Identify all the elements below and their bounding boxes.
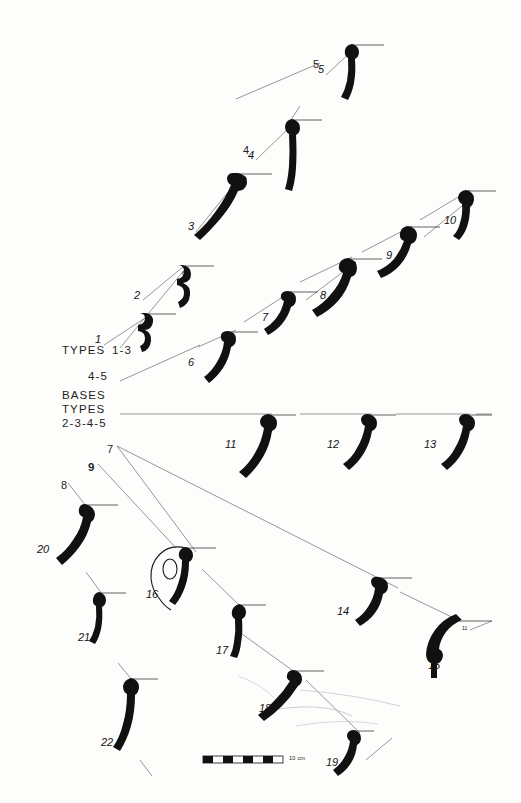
item-number-9: 9	[386, 248, 392, 262]
scale-bar-segment	[223, 756, 233, 763]
item-type-13: 6	[466, 419, 469, 426]
handle-lower-outline	[159, 598, 171, 610]
profile-7	[264, 291, 296, 335]
profile-22	[113, 678, 139, 751]
item-type-9: 6	[408, 231, 411, 238]
item-type-7: 5	[288, 296, 291, 303]
item-number-10: 10	[444, 213, 456, 227]
item-type-18: 2,5	[294, 675, 301, 682]
leader-line-5b	[236, 63, 320, 99]
sherd-outline-faint-c	[296, 721, 378, 726]
vessel-profiles-group	[56, 44, 475, 776]
item-number-4: 4	[248, 148, 254, 162]
item-type-1: 6	[146, 318, 149, 325]
item-number-8: 8	[320, 288, 326, 302]
item-type-20: 4	[85, 509, 88, 516]
item-number-12: 12	[327, 437, 339, 451]
leader-line-2	[120, 268, 186, 348]
item-type-17: 4	[239, 609, 242, 616]
sherd-outline-faint-b	[300, 690, 400, 706]
pottery-typology-plate: TYPES 1-3 4-5 BASES TYPES 2-3-4-5 45798 …	[0, 0, 521, 803]
item-number-17: 17	[216, 643, 228, 657]
item-number-19: 19	[326, 755, 338, 769]
scale-bar-segment	[203, 756, 213, 763]
item-number-16: 16	[146, 587, 158, 601]
item-number-11: 11	[225, 437, 236, 451]
scale-bar-segment	[263, 756, 273, 763]
leader-line-21	[86, 572, 102, 594]
item-type-16: 1	[186, 552, 189, 559]
item-type-21: 3	[99, 597, 102, 604]
item-number-2: 2	[134, 288, 140, 302]
item-type-2: 6	[182, 270, 185, 277]
legend-types-range-1-3: 1-3	[112, 343, 132, 358]
item-number-21: 21	[78, 630, 90, 644]
profile-16-rim	[169, 547, 193, 605]
item-number-6: 6	[188, 355, 194, 369]
item-number-22: 22	[101, 735, 113, 749]
profile-5	[341, 44, 359, 100]
scale-bar-label: 10 cm	[289, 755, 305, 762]
leader-line-20	[68, 483, 86, 506]
item-type-10: 6	[466, 195, 469, 202]
fan-line-9-to-16	[98, 464, 176, 548]
scale-bar-segment	[243, 756, 253, 763]
profile-17	[230, 604, 246, 658]
item-number-15: 15	[428, 658, 440, 672]
item-type-5: 5	[352, 49, 355, 56]
leader-line-18	[242, 634, 296, 673]
item-number-20: 20	[37, 542, 49, 556]
profile-14	[355, 577, 388, 626]
item-type-19: 2	[354, 735, 357, 742]
item-type-22: 2	[131, 683, 134, 690]
leader-line-15b	[470, 621, 492, 630]
item-type-3: 6	[238, 178, 241, 185]
legend-bases-label: BASES	[62, 388, 106, 403]
leader-8-item20: 8	[61, 478, 67, 492]
sherd-outline-faint-d	[238, 676, 276, 700]
item-number-1: 1	[95, 332, 101, 346]
item-number-14: 14	[337, 604, 349, 618]
item-type-6: 6	[228, 336, 231, 343]
profile-20	[56, 504, 95, 565]
item-number-5: 5	[318, 62, 324, 76]
profile-11	[239, 414, 277, 478]
item-type-4: 7	[292, 124, 295, 131]
item-type-8: 6	[348, 263, 351, 270]
item-type-12: 6	[368, 419, 371, 426]
leader-line-17	[202, 569, 241, 607]
item-type-15: 11	[462, 625, 467, 632]
legend-types-range-4-5: 4-5	[88, 369, 108, 384]
leader-line-19	[306, 680, 360, 733]
handle-inner-hole	[163, 559, 177, 579]
item-number-18: 18	[259, 701, 271, 715]
leader-7-fan: 7	[107, 442, 113, 456]
profile-21	[89, 592, 106, 644]
legend-bases-types-range: 2-3-4-5	[62, 416, 107, 431]
legend-bases-types-label: TYPES	[62, 402, 105, 417]
leader-line-22b	[140, 760, 152, 776]
item-number-7: 7	[262, 310, 268, 324]
fan-line-7-to-14	[117, 446, 398, 588]
leader-9-fan: 9	[88, 460, 94, 475]
fan-line-7-to-16	[117, 446, 196, 552]
scale-bar	[203, 756, 283, 763]
profile-12	[343, 414, 377, 470]
item-type-14: 6	[379, 582, 382, 589]
leader-line-19b	[366, 738, 392, 760]
profile-13	[441, 414, 475, 470]
profile-6	[204, 331, 236, 383]
item-number-13: 13	[424, 437, 436, 451]
item-number-3: 3	[188, 219, 194, 233]
item-type-11: 5	[268, 419, 271, 426]
